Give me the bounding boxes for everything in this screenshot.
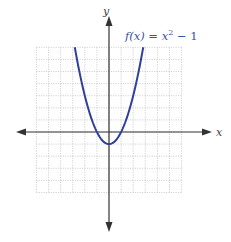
function-label: f(x) = x2 − 1 — [124, 28, 198, 43]
x-axis-right-arrow-icon — [202, 129, 212, 136]
function-label-suffix: − 1 — [173, 29, 197, 43]
y-axis-label: y — [102, 5, 110, 18]
axes — [16, 16, 212, 232]
function-graph: x y f(x) = x2 − 1 — [0, 0, 231, 242]
y-axis-down-arrow-icon — [106, 222, 113, 232]
function-label-prefix: f(x) = x — [124, 29, 169, 43]
x-axis-left-arrow-icon — [16, 129, 26, 136]
x-axis-label: x — [216, 126, 223, 139]
